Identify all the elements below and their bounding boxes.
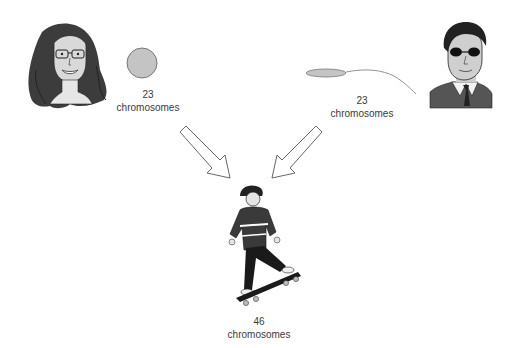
arrow-father-to-child-icon [272, 126, 322, 178]
father-chromosome-unit: chromosomes [312, 107, 412, 120]
father-chromosome-label: 23 chromosomes [312, 94, 412, 120]
father-chromosome-count: 23 [312, 94, 412, 107]
mother-portrait-icon [28, 23, 106, 108]
mother-chromosome-unit: chromosomes [98, 101, 198, 114]
mother-chromosome-count: 23 [98, 88, 198, 101]
sperm-cell-icon [306, 69, 416, 94]
child-chromosome-count: 46 [209, 315, 309, 328]
child-on-skateboard-icon [229, 185, 301, 305]
mother-chromosome-label: 23 chromosomes [98, 88, 198, 114]
child-chromosome-label: 46 chromosomes [209, 315, 309, 341]
child-chromosome-unit: chromosomes [209, 328, 309, 341]
father-portrait-icon [430, 22, 492, 108]
diagram-graphics [0, 0, 512, 348]
diagram-canvas: 23 chromosomes 23 chromosomes 46 chromos… [0, 0, 512, 348]
egg-cell-icon [127, 48, 157, 78]
arrow-mother-to-child-icon [180, 126, 230, 178]
